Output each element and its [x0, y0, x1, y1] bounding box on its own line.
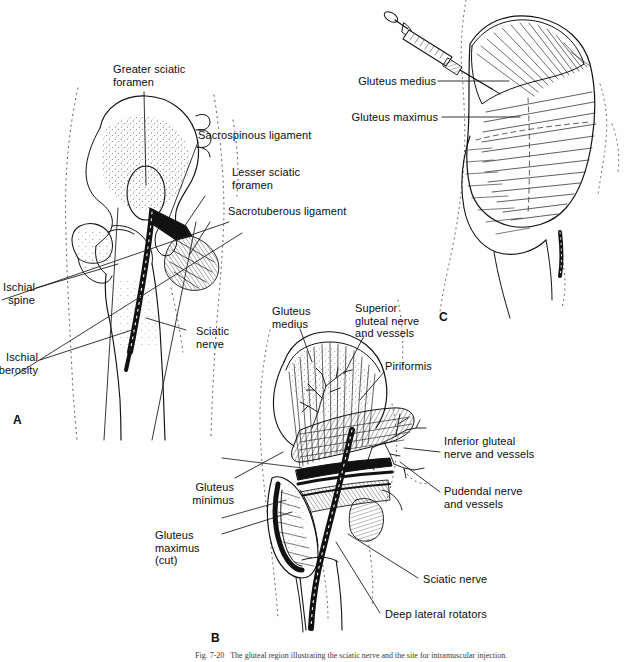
label-sacrospinous-ligament: Sacrospinous ligament	[198, 129, 311, 142]
label-gluteus-minimus: Gluteus minimus	[150, 481, 234, 506]
label-inferior-gluteal-nerve-and-vessels: Inferior gluteal nerve and vessels	[444, 435, 534, 460]
label-sciatic-nerve-b: Sciatic nerve	[423, 573, 487, 586]
figure-caption: Fig. 7-20 The gluteal region illustratin…	[195, 651, 615, 662]
label-greater-sciatic-foramen: Greater sciatic foramen	[113, 63, 185, 88]
label-pudendal-nerve-and-vessels: Pudendal nerve and vessels	[444, 485, 522, 510]
label-lesser-sciatic-foramen: Lesser sciatic foramen	[232, 166, 300, 191]
label-sciatic-nerve-a: Sciatic nerve	[196, 325, 229, 350]
panel-b-artwork	[222, 300, 430, 632]
panel-c-artwork	[382, 0, 618, 318]
label-superior-gluteal-nerve-and-vessels: Superior gluteal nerve and vessels	[355, 302, 419, 340]
label-ischial-spine: Ischial spine	[0, 281, 35, 306]
label-gluteus-medius-b: Gluteus medius	[272, 305, 311, 330]
panel-c-leaders	[438, 81, 520, 117]
label-piriformis: Piriformis	[385, 360, 432, 373]
figure-artwork	[0, 0, 627, 662]
label-gluteus-medius-c: Gluteus medius	[338, 75, 436, 88]
panel-letter-a: A	[13, 413, 22, 427]
label-sacrotuberous-ligament: Sacrotuberous ligament	[228, 205, 346, 218]
label-gluteus-maximus-c: Gluteus maximus	[330, 111, 438, 124]
anatomy-figure-plate: Greater sciatic foramen Sacrospinous lig…	[0, 0, 627, 662]
label-ischial-tuberosity: Ischial tuberosity	[0, 351, 38, 376]
label-deep-lateral-rotators: Deep lateral rotators	[385, 608, 487, 621]
label-gluteus-maximus-cut: Gluteus maximus (cut)	[155, 529, 200, 567]
panel-letter-c: C	[439, 310, 448, 324]
panel-letter-b: B	[211, 631, 220, 645]
